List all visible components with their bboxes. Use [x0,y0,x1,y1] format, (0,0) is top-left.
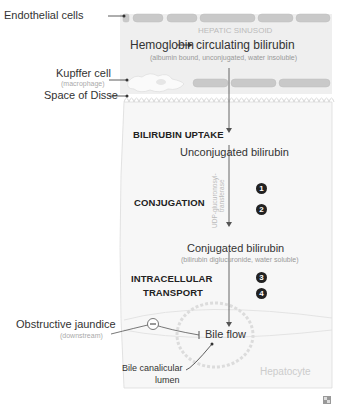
step-badge-1: 1 [256,183,267,194]
hepatocyte-label: Hepatocyte [260,366,311,377]
step-badge-2: 2 [256,204,267,215]
kupffer-cell-sublabel: (macrophage) [61,80,105,87]
bile-canalicular-lumen-label: lumen [155,375,180,385]
step-badge-4: 4 [256,288,267,299]
circulating-bilirubin-sublabel: (albumin bound, unconjugated, water inso… [150,54,297,61]
obstructive-jaundice-sublabel: (downstream) [60,332,103,339]
intracellular-heading: INTRACELLULAR [131,273,213,284]
bilirubin-uptake-heading: BILIRUBIN UPTAKE [133,129,224,140]
endothelial-cells-bottom [193,79,330,87]
hepatic-sinusoid-title: HEPATIC SINUSOID [198,26,272,35]
conjugated-bilirubin-sublabel: (bilirubin diglucuronide, water soluble) [181,256,299,263]
step-badge-3: 3 [256,272,267,283]
transport-heading: TRANSPORT [143,287,203,298]
diagram-graphics [0,0,337,419]
hemoglobin-label: Hemoglobin [130,38,194,52]
circulating-bilirubin-label: circulating bilirubin [196,38,295,52]
endothelial-cells-top [123,14,330,22]
space-of-disse-label: Space of Disse [44,89,118,101]
obstructive-jaundice-label: Obstructive jaundice [16,318,116,330]
conjugation-heading: CONJUGATION [134,197,205,208]
bile-canalicular-label: Bile canalicular [122,363,183,373]
unconjugated-bilirubin-label: Unconjugated bilirubin [180,146,289,158]
bile-flow-label: Bile flow [205,328,246,340]
endothelial-cells-label: Endothelial cells [4,9,84,21]
conjugated-bilirubin-label: Conjugated bilirubin [187,242,284,254]
kupffer-cell-label: Kupffer cell [56,67,111,79]
enzyme-label: UDP-glucuronosyl- transferase [211,173,225,228]
